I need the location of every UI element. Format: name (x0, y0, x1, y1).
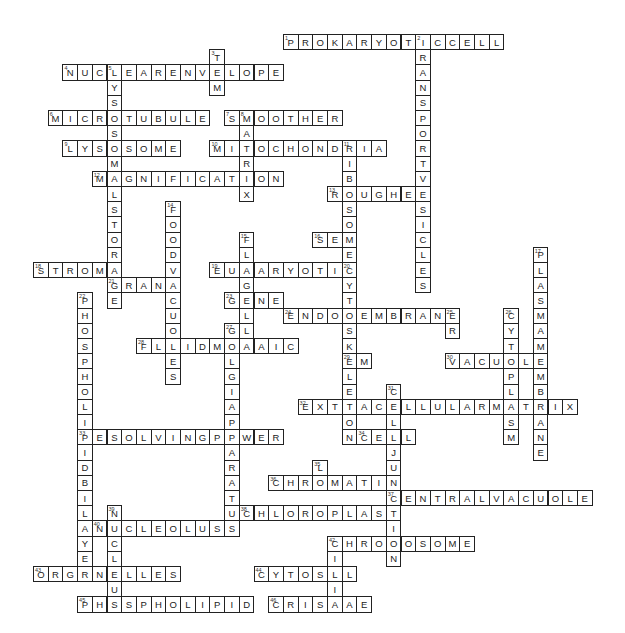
crossword-cell[interactable]: P (224, 414, 240, 430)
crossword-cell[interactable]: T (239, 140, 255, 156)
crossword-cell[interactable]: E (209, 64, 225, 80)
crossword-cell[interactable]: C (268, 140, 284, 156)
crossword-cell[interactable]: C (445, 34, 461, 50)
crossword-cell[interactable]: I (62, 110, 78, 126)
crossword-cell[interactable]: E (165, 353, 181, 369)
crossword-cell[interactable]: I (224, 384, 240, 400)
crossword-cell[interactable]: S (107, 596, 123, 612)
crossword-cell[interactable]: A (239, 262, 255, 278)
crossword-cell[interactable]: M (533, 338, 549, 354)
crossword-cell[interactable]: V (165, 262, 181, 278)
crossword-cell[interactable]: L (415, 247, 431, 263)
crossword-cell[interactable]: O (165, 520, 181, 536)
crossword-cell[interactable]: L (445, 399, 461, 415)
crossword-cell[interactable]: O (430, 536, 446, 552)
crossword-cell[interactable]: U (224, 262, 240, 278)
crossword-cell[interactable]: O (298, 140, 314, 156)
crossword-cell[interactable]: E (239, 292, 255, 308)
crossword-cell[interactable]: C (474, 353, 490, 369)
crossword-cell[interactable]: S (415, 536, 431, 552)
crossword-cell[interactable]: S18 (33, 262, 49, 278)
crossword-cell[interactable]: T (312, 262, 328, 278)
crossword-cell[interactable]: R (239, 156, 255, 172)
crossword-cell[interactable]: L (415, 399, 431, 415)
crossword-cell[interactable]: X (562, 399, 578, 415)
crossword-cell[interactable]: M (503, 429, 519, 445)
crossword-cell[interactable]: I (239, 171, 255, 187)
crossword-cell[interactable]: I (165, 429, 181, 445)
crossword-cell[interactable]: A (254, 262, 270, 278)
crossword-cell[interactable]: A (503, 490, 519, 506)
crossword-cell[interactable]: U (430, 399, 446, 415)
crossword-cell[interactable]: O (342, 308, 358, 324)
crossword-cell[interactable]: E (327, 232, 343, 248)
crossword-cell[interactable]: I (180, 171, 196, 187)
crossword-cell[interactable]: A (136, 277, 152, 293)
crossword-cell[interactable]: Y (107, 80, 123, 96)
crossword-cell[interactable]: P (209, 596, 225, 612)
crossword-cell[interactable]: U (165, 110, 181, 126)
crossword-cell[interactable]: C44 (254, 566, 270, 582)
crossword-cell[interactable]: N (92, 566, 108, 582)
crossword-cell[interactable]: V (195, 64, 211, 80)
crossword-cell[interactable]: N (312, 140, 328, 156)
crossword-cell[interactable]: H (342, 536, 358, 552)
crossword-cell[interactable]: H (283, 140, 299, 156)
crossword-cell[interactable]: S (107, 125, 123, 141)
crossword-cell[interactable]: N4 (62, 64, 78, 80)
crossword-cell[interactable]: H (77, 368, 93, 384)
crossword-cell[interactable]: N (533, 429, 549, 445)
crossword-cell[interactable]: E (415, 186, 431, 202)
crossword-cell[interactable]: T (342, 292, 358, 308)
crossword-cell[interactable]: U (533, 490, 549, 506)
crossword-cell[interactable]: O (312, 34, 328, 50)
crossword-cell[interactable]: U (107, 520, 123, 536)
crossword-cell[interactable]: R11 (342, 140, 358, 156)
crossword-cell[interactable]: L (342, 505, 358, 521)
crossword-cell[interactable]: H (92, 596, 108, 612)
crossword-cell[interactable]: S (312, 596, 328, 612)
crossword-cell[interactable]: G (239, 277, 255, 293)
crossword-cell[interactable]: D (312, 308, 328, 324)
crossword-cell[interactable]: I (342, 156, 358, 172)
crossword-cell[interactable]: O (298, 566, 314, 582)
crossword-cell[interactable]: F14 (165, 201, 181, 217)
crossword-cell[interactable]: O (136, 140, 152, 156)
crossword-cell[interactable]: L (401, 399, 417, 415)
crossword-cell[interactable]: C34 (356, 429, 372, 445)
crossword-cell[interactable]: T (401, 34, 417, 50)
crossword-cell[interactable]: I (548, 399, 564, 415)
crossword-cell[interactable]: I (77, 444, 93, 460)
crossword-cell[interactable]: L35 (312, 460, 328, 476)
crossword-cell[interactable]: A (459, 353, 475, 369)
crossword-cell[interactable]: T (224, 171, 240, 187)
crossword-cell[interactable]: V (489, 490, 505, 506)
crossword-cell[interactable]: T (48, 262, 64, 278)
crossword-cell[interactable]: C (77, 110, 93, 126)
crossword-cell[interactable]: E (356, 308, 372, 324)
crossword-cell[interactable]: L (386, 414, 402, 430)
crossword-cell[interactable]: S (415, 277, 431, 293)
crossword-cell[interactable]: M (209, 338, 225, 354)
crossword-cell[interactable]: L (474, 490, 490, 506)
crossword-cell[interactable]: O (268, 110, 284, 126)
crossword-cell[interactable]: V (415, 171, 431, 187)
crossword-cell[interactable]: D (165, 247, 181, 263)
crossword-cell[interactable]: L9 (62, 140, 78, 156)
crossword-cell[interactable]: S (415, 95, 431, 111)
crossword-cell[interactable]: R (356, 34, 372, 50)
crossword-cell[interactable]: E (77, 551, 93, 567)
crossword-cell[interactable]: E (165, 140, 181, 156)
crossword-cell[interactable]: S (121, 596, 137, 612)
crossword-cell[interactable]: N (415, 80, 431, 96)
crossword-cell[interactable]: M (107, 156, 123, 172)
crossword-cell[interactable]: G21 (107, 277, 123, 293)
crossword-cell[interactable]: M8 (239, 110, 255, 126)
crossword-cell[interactable]: L (77, 505, 93, 521)
crossword-cell[interactable]: A (533, 277, 549, 293)
crossword-cell[interactable]: S (165, 566, 181, 582)
crossword-cell[interactable]: O (312, 505, 328, 521)
crossword-cell[interactable]: W (239, 429, 255, 445)
crossword-cell[interactable]: E (401, 490, 417, 506)
crossword-cell[interactable]: L (136, 520, 152, 536)
